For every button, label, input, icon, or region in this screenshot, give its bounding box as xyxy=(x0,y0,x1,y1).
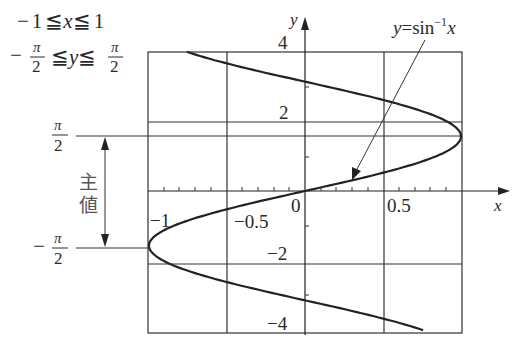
range-y-mid: ≦y≦ xyxy=(51,45,96,69)
principal-label-2: 値 xyxy=(79,195,98,216)
neg-pi-over-2-minus: − xyxy=(33,234,45,258)
range-x-text: −1≦x≦1 xyxy=(17,9,104,33)
y-axis-label: y xyxy=(288,10,298,29)
x-tick-0: 0 xyxy=(291,195,301,216)
pi-over-2-den: 2 xyxy=(54,136,63,155)
y-axis-arrow-icon xyxy=(301,17,309,30)
y-tick-2: 2 xyxy=(279,102,289,123)
range-y-pi-1: π xyxy=(33,39,41,55)
range-y-minus: − xyxy=(10,43,22,67)
curve-label: y=sin−1x xyxy=(391,15,456,38)
neg-pi-over-2-num: π xyxy=(54,230,62,246)
range-y-two-2: 2 xyxy=(110,57,119,76)
principal-label-1: 主 xyxy=(79,172,98,193)
pi-over-2-num: π xyxy=(54,117,62,133)
x-axis-arrow-icon xyxy=(498,187,510,195)
axes xyxy=(148,26,502,335)
chart-canvas: −1≦x≦1 − π 2 ≦y≦ π 2 π 2 − π 2 主 値 y x 4… xyxy=(0,0,514,355)
neg-pi-over-2-den: 2 xyxy=(54,249,63,268)
y-tick-neg-2: −2 xyxy=(267,243,287,264)
x-axis-label: x xyxy=(493,196,502,215)
y-tick-neg-4: −4 xyxy=(267,313,288,334)
arrow-down-icon xyxy=(101,234,109,247)
x-tick-neg-1: −1 xyxy=(150,210,170,231)
arrow-up-icon xyxy=(101,137,109,150)
range-y-pi-2: π xyxy=(111,39,119,55)
inverse-sine-chart: −1≦x≦1 − π 2 ≦y≦ π 2 π 2 − π 2 主 値 y x 4… xyxy=(0,0,514,355)
annotation-leader-line xyxy=(355,40,425,173)
x-tick-0.5: 0.5 xyxy=(387,195,411,216)
y-tick-4: 4 xyxy=(278,32,288,53)
x-tick-neg-0.5: −0.5 xyxy=(234,211,268,232)
range-y-two-1: 2 xyxy=(32,57,41,76)
